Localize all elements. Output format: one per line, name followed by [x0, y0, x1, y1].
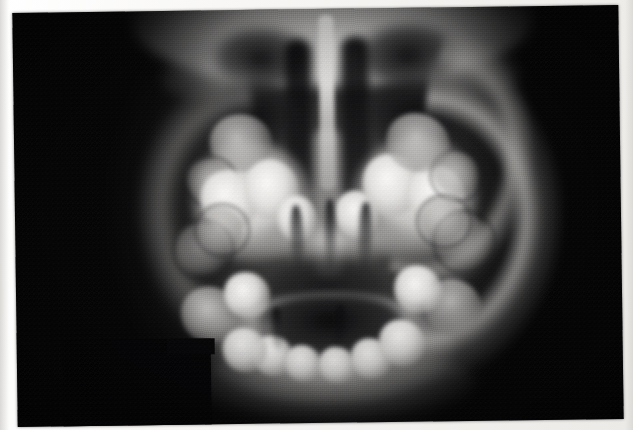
oral-airway	[256, 293, 405, 361]
tooth-ur-incisor-b	[335, 190, 380, 239]
tooth-ll-canine-low	[220, 326, 269, 375]
maxillary-sinus-left	[204, 75, 306, 160]
tooth-ll-incisor-b	[285, 345, 321, 381]
tooth-ur-canine	[403, 162, 468, 229]
follicle-ring-ul-molar-post	[172, 219, 235, 282]
tooth-ur-premolar-a	[429, 148, 481, 199]
tooth-lr-molar-dev	[421, 276, 486, 339]
streak-low-right	[334, 305, 346, 349]
orbit-right	[357, 23, 458, 88]
maxilla-right	[350, 137, 478, 261]
tooth-ul-molar-post	[171, 218, 232, 279]
tooth-ul-incisor-b	[277, 195, 318, 242]
hard-palate	[251, 214, 417, 264]
maxilla-left	[192, 141, 314, 263]
mandible-body	[204, 293, 455, 404]
tooth-ur-molar-post	[431, 209, 493, 271]
tooth-ul-molar-dev	[204, 108, 277, 178]
zygomatic-arch-right	[338, 11, 527, 111]
streak-center	[325, 199, 336, 269]
tooth-ur-molar-dev	[381, 108, 455, 177]
tooth-lr-canine-low	[377, 318, 427, 368]
streak-mid-right	[359, 202, 372, 268]
tooth-lr-premolar	[392, 264, 444, 316]
follicle-ring-ul-premolar-a	[183, 155, 238, 208]
tooth-lr-incisor-a	[351, 338, 392, 379]
tooth-ul-premolar-a	[184, 155, 234, 203]
tooth-ll-incisor-a	[253, 335, 294, 376]
tooth-ul-canine	[197, 167, 262, 233]
tooth-ll-premolar	[221, 269, 272, 320]
tooth-ll-deep-molar	[192, 201, 248, 255]
tooth-ur-incisor-a	[362, 154, 421, 217]
streak-low-left	[271, 307, 284, 350]
zygomatic-arch-left	[153, 13, 339, 117]
cranial-base-band	[132, 5, 534, 89]
film-corner-artifact-step	[167, 338, 215, 355]
follicle-ring-lr-deep-molar	[416, 194, 473, 249]
streak-mid-left	[290, 205, 305, 270]
tooth-ul-incisor-a	[244, 159, 299, 220]
vomer-shadow	[314, 129, 342, 279]
follicle-ring-ur-premolar-a	[429, 148, 486, 203]
oral-air-upper	[268, 256, 387, 316]
follicle-ring-ur-molar-post	[432, 210, 497, 275]
nasal-cavity-right	[341, 36, 371, 196]
screenshot-root: Black and white dental panoramic X-ray s…	[0, 0, 633, 430]
ramus-left	[118, 64, 282, 377]
nasal-cavity-left	[285, 39, 313, 194]
mandible-inferior-border	[195, 345, 476, 421]
ramus-right-inner-border	[389, 26, 563, 297]
maxillary-sinus-right	[359, 72, 464, 158]
nasal-septum	[318, 15, 335, 190]
follicle-ring-ll-deep-molar	[194, 203, 251, 258]
tooth-ll-molar-dev	[177, 282, 243, 346]
tooth-lr-deep-molar	[415, 193, 470, 246]
tooth-lr-incisor-b	[319, 347, 355, 383]
radiograph-film	[12, 5, 623, 427]
radiograph-image	[12, 5, 623, 427]
orbit-left	[213, 27, 309, 90]
ramus-right	[396, 55, 581, 399]
